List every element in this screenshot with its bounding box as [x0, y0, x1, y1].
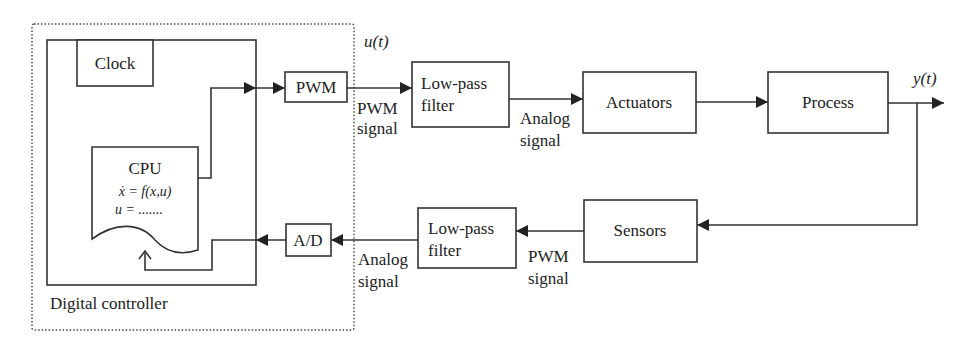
digital-controller-label: Digital controller — [50, 294, 168, 313]
lpf-feedback-label-1: Low-pass — [428, 219, 494, 238]
actuators-block: Actuators — [583, 72, 696, 133]
actuators-label: Actuators — [606, 93, 672, 112]
cpu-equation-1: ẋ = f(x,u) — [118, 184, 172, 200]
arrowhead-icon — [932, 97, 944, 109]
lowpass-filter-feedback-block: Low-pass filter — [418, 208, 516, 268]
arrowhead-icon — [756, 96, 768, 108]
arrowhead-icon — [571, 93, 583, 105]
pwm-block: PWM — [285, 72, 347, 102]
forward-pwm-signal-label-1: PWM — [357, 99, 398, 118]
cpu-equation-2: u = ....... — [115, 202, 163, 217]
lpf-forward-label-2: filter — [421, 96, 454, 115]
ad-label: A/D — [293, 231, 322, 250]
arrowhead-icon — [256, 234, 268, 246]
forward-analog-signal-label-1: Analog — [520, 109, 571, 128]
clock-block: Clock — [77, 40, 153, 86]
sensors-label: Sensors — [614, 221, 667, 240]
arrowhead-icon — [516, 225, 528, 237]
y-of-t-label: y(t) — [911, 69, 937, 88]
lpf-forward-label-1: Low-pass — [421, 74, 487, 93]
arrowhead-icon — [400, 82, 412, 94]
forward-analog-signal-label-2: signal — [520, 131, 561, 150]
cpu-label: CPU — [128, 159, 161, 178]
u-of-t-label: u(t) — [364, 32, 389, 51]
process-block: Process — [768, 72, 888, 133]
pwm-label: PWM — [296, 78, 337, 97]
forward-pwm-signal-label-2: signal — [357, 119, 398, 138]
feedback-analog-signal-label-2: signal — [358, 272, 399, 291]
control-block-diagram: Clock CPU ẋ = f(x,u) u = ....... PWM u(t… — [0, 0, 973, 345]
arrowhead-icon — [331, 234, 343, 246]
clock-label: Clock — [95, 54, 136, 73]
feedback-pwm-signal-label-1: PWM — [528, 247, 569, 266]
arrowhead-icon — [697, 219, 709, 231]
feedback-pwm-signal-label-2: signal — [528, 269, 569, 288]
process-label: Process — [802, 93, 854, 112]
feedback-analog-signal-label-1: Analog — [358, 250, 409, 269]
arrowhead-icon — [273, 82, 285, 94]
lowpass-filter-forward-block: Low-pass filter — [412, 62, 509, 127]
ad-converter-block: A/D — [286, 224, 331, 256]
sensors-block: Sensors — [584, 200, 697, 262]
lpf-feedback-label-2: filter — [428, 241, 461, 260]
